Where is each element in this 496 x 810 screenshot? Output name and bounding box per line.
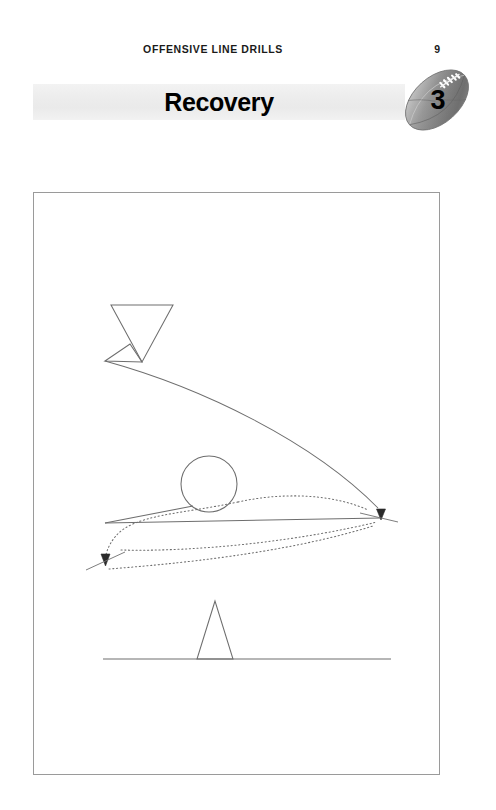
recovery-path-dotted-right [238, 496, 368, 510]
football-icon [396, 62, 478, 138]
circle-leader-line [105, 506, 193, 523]
ball-circle [181, 456, 237, 512]
page-number: 9 [434, 43, 440, 55]
offense-triangle-up [197, 601, 233, 659]
defender-triangle-down [111, 305, 173, 362]
page-title: Recovery [33, 84, 405, 120]
recovery-path-dotted-left [105, 502, 238, 564]
return-path-dotted [109, 526, 373, 569]
drill-diagram [33, 192, 440, 775]
running-head-title: OFFENSIVE LINE DRILLS [33, 43, 393, 55]
pursuit-path [105, 361, 378, 508]
blocking-wedge [105, 344, 142, 362]
recovery-path-solid [105, 518, 381, 523]
running-head: OFFENSIVE LINE DRILLS 9 [33, 43, 440, 59]
